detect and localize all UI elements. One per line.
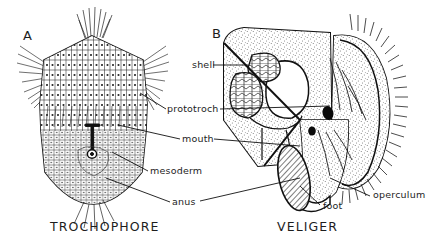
trochophore-apical-cilia [77,7,112,38]
trochophore-drawing [17,7,169,229]
caption-trochophore: TROCHOPHORE [50,221,160,234]
veliger-drawing [220,14,408,216]
label-anus: anus [172,197,196,207]
label-operculum: operculum [373,190,425,200]
panel-letter-b: B [212,27,221,40]
trochophore-upper-epithelium [38,34,152,106]
label-shell: shell [192,60,215,70]
label-foot: foot [323,201,343,211]
label-mesoderm: mesoderm [150,166,202,176]
trochophore-lower-epithelium [38,128,152,208]
caption-veliger: VELIGER [277,221,338,234]
label-prototroch: prototroch [167,104,219,114]
panel-letter-a: A [23,29,32,42]
figure-container: A B shell prototroch mouth mesoderm anus… [0,0,436,245]
label-mouth: mouth [182,134,214,144]
